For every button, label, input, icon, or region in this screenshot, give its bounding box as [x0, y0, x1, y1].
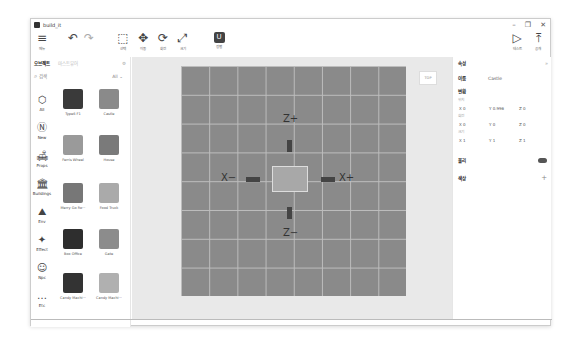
object-item[interactable]: Food Truck: [91, 183, 127, 215]
select-icon: ⬚: [117, 31, 128, 45]
scale-y-field[interactable]: Y 1: [489, 138, 519, 143]
properties-panel: 속성 » 이름 Castle 변환 위치 X 0 Y 0.996 Z 0 회전 …: [452, 57, 551, 320]
sofa-icon: 🛋: [36, 151, 49, 161]
scale-label: 크기: [453, 129, 551, 136]
object-item[interactable]: Candy Machi···: [55, 273, 91, 305]
object-thumbnail: [63, 135, 83, 155]
undo-icon: ↶: [68, 31, 78, 45]
3d-viewport[interactable]: Z+ Z− X− X+ TOP: [132, 57, 452, 320]
category-npc[interactable]: ☺Npc: [31, 257, 53, 285]
scale-icon: ⤢: [178, 31, 188, 45]
menu-button[interactable]: ≡메뉴: [34, 31, 50, 51]
settings-icon[interactable]: ⚙: [122, 61, 126, 66]
tab-master-viewer[interactable]: 마스트뷰어: [58, 60, 78, 66]
scale-z-field[interactable]: Z 1: [519, 138, 549, 143]
object-thumbnail: [99, 183, 119, 203]
name-label: 이름: [458, 75, 488, 81]
object-item[interactable]: Ferris Wheel: [55, 135, 91, 167]
category-new[interactable]: ⓃNew: [31, 117, 53, 145]
rotation-x-field[interactable]: X 0: [459, 122, 489, 127]
maximize-button[interactable]: ❐: [525, 21, 531, 29]
redo-icon: ↷: [84, 31, 94, 45]
search-row: ⌕ 검색 All ⌄: [31, 69, 130, 83]
axis-label-x-plus: X+: [339, 172, 354, 183]
window-bottom-border: [31, 319, 552, 320]
object-thumbnail: [99, 229, 119, 249]
physics-toggle[interactable]: [538, 158, 547, 163]
category-env[interactable]: ⛰Env: [31, 201, 53, 229]
object-item[interactable]: Box Office: [55, 229, 91, 261]
rotation-z-field[interactable]: Z 0: [519, 122, 549, 127]
category-etc[interactable]: …Etc: [31, 285, 53, 313]
selected-object-castle[interactable]: [272, 166, 308, 192]
new-icon: Ⓝ: [37, 123, 47, 133]
position-y-field[interactable]: Y 0.996: [489, 106, 519, 111]
object-item[interactable]: Gate: [91, 229, 127, 261]
upload-icon: ⤒: [536, 31, 541, 45]
move-tool[interactable]: ✥이동: [135, 31, 151, 51]
rotate-tool[interactable]: ⟳회전: [155, 31, 171, 51]
magnet-icon: U: [214, 32, 225, 43]
category-effect[interactable]: ✦Effect: [31, 229, 53, 257]
view-cube[interactable]: TOP: [419, 71, 437, 85]
object-item[interactable]: Candy Machi···: [91, 273, 127, 305]
building-icon: 🏛: [36, 179, 49, 189]
object-thumbnail: [99, 89, 119, 109]
sparkle-icon: ✦: [38, 235, 46, 245]
object-thumbnail: [99, 273, 119, 293]
object-thumbnail: [99, 135, 119, 155]
gizmo-arrow-x-minus[interactable]: [246, 177, 260, 182]
cube-icon: ⬡: [38, 95, 47, 105]
object-thumbnail: [63, 89, 83, 109]
add-color-icon[interactable]: +: [541, 174, 547, 182]
scale-fields: X 1 Y 1 Z 1: [453, 136, 551, 145]
window-title: build_it: [43, 22, 61, 28]
position-x-field[interactable]: X 0: [459, 106, 489, 111]
position-fields: X 0 Y 0.996 Z 0: [453, 104, 551, 113]
category-all[interactable]: ⬡All: [31, 89, 53, 117]
category-filter[interactable]: All ⌄: [112, 74, 123, 79]
object-item[interactable]: Castle: [91, 89, 127, 121]
toolbar: ≡메뉴 ↶ ↷ ⬚선택 ✥이동 ⟳회전 ⤢크기 U정렬 ▷테스트 ⤒공개: [31, 31, 550, 57]
gizmo-arrow-z-plus[interactable]: [287, 140, 292, 152]
gizmo-arrow-x-plus[interactable]: [321, 177, 335, 182]
close-button[interactable]: ✕: [540, 21, 546, 29]
category-buildings[interactable]: 🏛Buildings: [31, 173, 53, 201]
scale-tool[interactable]: ⤢크기: [175, 31, 191, 51]
snap-button[interactable]: U정렬: [211, 31, 227, 49]
test-button[interactable]: ▷테스트: [509, 31, 525, 51]
scale-x-field[interactable]: X 1: [459, 138, 489, 143]
search-icon: ⌕: [34, 72, 37, 80]
rotation-y-field[interactable]: Y 0: [489, 122, 519, 127]
object-item[interactable]: Merry Go Ro···: [55, 183, 91, 215]
collapse-icon[interactable]: »: [545, 60, 548, 66]
category-props[interactable]: 🛋Props: [31, 145, 53, 173]
object-thumbnail: [63, 183, 83, 203]
rotation-fields: X 0 Y 0 Z 0: [453, 120, 551, 129]
select-tool[interactable]: ⬚선택: [115, 31, 131, 51]
color-label: 색상: [458, 175, 488, 181]
object-item[interactable]: Type6 F1: [55, 89, 91, 121]
tab-objects[interactable]: 오브젝트: [34, 60, 50, 66]
app-window: build_it – ❐ ✕ ≡메뉴 ↶ ↷ ⬚선택 ✥이동 ⟳회전 ⤢크기 U…: [30, 18, 551, 326]
object-item[interactable]: House: [91, 135, 127, 167]
more-icon: …: [37, 291, 47, 301]
undo-button[interactable]: ↶: [65, 31, 81, 45]
minimize-button[interactable]: –: [512, 21, 516, 29]
object-thumbnail: [63, 273, 83, 293]
app-icon: [34, 22, 40, 28]
position-z-field[interactable]: Z 0: [519, 106, 549, 111]
gizmo-arrow-z-minus[interactable]: [287, 207, 292, 219]
position-label: 위치: [453, 97, 551, 104]
search-input[interactable]: 검색: [39, 73, 47, 79]
rotation-label: 회전: [453, 113, 551, 120]
transform-label: 변환: [458, 88, 488, 94]
menu-icon: ≡: [37, 31, 47, 45]
axis-label-z-plus: Z+: [283, 113, 298, 124]
publish-button[interactable]: ⤒공개: [530, 31, 546, 51]
mountain-icon: ⛰: [38, 207, 46, 217]
redo-button[interactable]: ↷: [81, 31, 97, 45]
rotate-icon: ⟳: [158, 31, 168, 45]
physics-label: 물리: [458, 157, 488, 163]
name-field[interactable]: Castle: [488, 76, 502, 81]
